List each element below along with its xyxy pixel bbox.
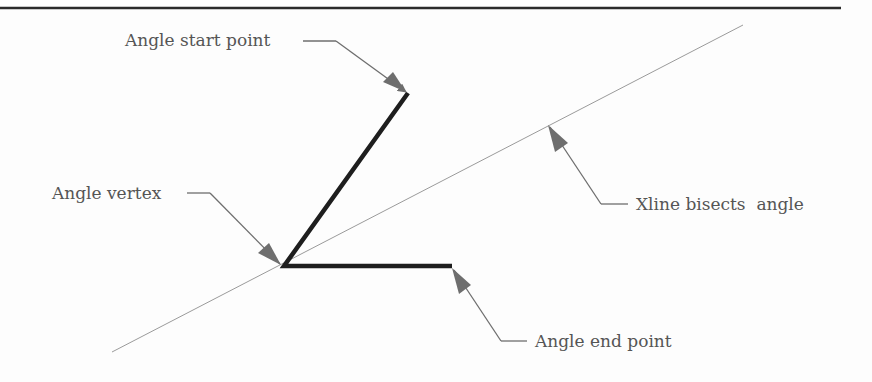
xline-bisector <box>112 25 743 352</box>
arrowhead-icon <box>452 268 471 294</box>
label-angle-end-point: Angle end point <box>535 331 672 351</box>
label-angle-vertex: Angle vertex <box>52 183 161 203</box>
leader-xline <box>548 125 628 204</box>
leader-vertex <box>187 193 281 265</box>
leader-start-point <box>303 41 406 92</box>
arrowhead-icon <box>258 243 281 265</box>
label-angle-start-point: Angle start point <box>125 30 270 50</box>
leader-end-point <box>452 268 527 341</box>
angle-lines <box>284 93 452 266</box>
arrowhead-icon <box>548 125 568 152</box>
arrowhead-icon <box>383 72 406 92</box>
label-xline-bisects-angle: Xline bisects angle <box>636 194 804 214</box>
